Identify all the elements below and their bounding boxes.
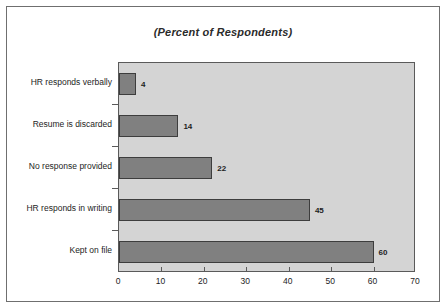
x-axis-tick bbox=[374, 267, 375, 271]
bar-value-label: 14 bbox=[183, 122, 192, 131]
x-axis-tick-label: 40 bbox=[283, 276, 292, 286]
x-axis-tick-label: 20 bbox=[198, 276, 207, 286]
bar bbox=[119, 241, 374, 263]
bar bbox=[119, 157, 212, 179]
x-axis-tick bbox=[161, 267, 162, 271]
bar bbox=[119, 115, 178, 137]
bar-value-label: 45 bbox=[315, 206, 324, 215]
bar-row: 22 bbox=[119, 157, 414, 179]
bar-row: 60 bbox=[119, 241, 414, 263]
bar bbox=[119, 73, 136, 95]
x-axis-tick bbox=[331, 267, 332, 271]
category-label: Kept on file bbox=[8, 245, 112, 255]
bars-layer: 414224560 bbox=[119, 63, 414, 271]
bar bbox=[119, 199, 310, 221]
category-label: Resume is discarded bbox=[8, 119, 112, 129]
x-axis-tick-label: 50 bbox=[325, 276, 334, 286]
bar-value-label: 4 bbox=[141, 80, 145, 89]
category-label: No response provided bbox=[8, 161, 112, 171]
x-axis-tick-label: 10 bbox=[156, 276, 165, 286]
chart-figure: (Percent of Respondents) HR responds ver… bbox=[0, 0, 446, 308]
x-axis-tick bbox=[246, 267, 247, 271]
x-axis-tick bbox=[289, 267, 290, 271]
x-axis-tick-label: 30 bbox=[241, 276, 250, 286]
x-axis-tick-label: 70 bbox=[410, 276, 419, 286]
category-label: HR responds in writing bbox=[8, 203, 112, 213]
x-axis-tick bbox=[204, 267, 205, 271]
bar-row: 45 bbox=[119, 199, 414, 221]
chart-title: (Percent of Respondents) bbox=[0, 26, 446, 38]
bar-value-label: 60 bbox=[379, 248, 388, 257]
bar-row: 4 bbox=[119, 73, 414, 95]
bar-value-label: 22 bbox=[217, 164, 226, 173]
x-axis-tick-label: 0 bbox=[116, 276, 121, 286]
category-label: HR responds verbally bbox=[8, 77, 112, 87]
plot-area: 414224560 bbox=[118, 62, 415, 272]
bar-row: 14 bbox=[119, 115, 414, 137]
x-axis-tick-label: 60 bbox=[368, 276, 377, 286]
